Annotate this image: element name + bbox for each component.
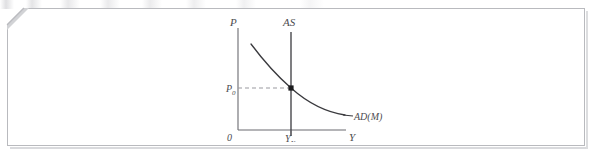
equilibrium-point xyxy=(288,85,293,90)
equilibrium-price-label: P0 xyxy=(225,83,236,97)
scan-noise-artifact xyxy=(0,0,606,9)
figure-page: P Y 0 AS AD(M) P0 YN xyxy=(0,0,606,161)
x-axis-label: Y xyxy=(349,131,357,142)
natural-output-label: YN xyxy=(285,133,296,142)
ad-as-diagram: P Y 0 AS AD(M) P0 YN xyxy=(205,12,405,142)
p0-subscript: 0 xyxy=(232,89,236,97)
ad-label-argument: (M) xyxy=(367,111,383,123)
as-curve-label: AS xyxy=(282,16,296,28)
ad-label-leader xyxy=(343,115,353,116)
page-bottom-shadow xyxy=(10,147,588,149)
page-right-shadow xyxy=(586,11,588,149)
origin-label: 0 xyxy=(227,132,232,142)
yn-subscript: N xyxy=(290,139,296,142)
y-axis-label: P xyxy=(229,16,237,28)
chart-svg: P Y 0 AS AD(M) P0 YN xyxy=(205,12,405,142)
ad-curve xyxy=(251,44,345,115)
ad-label-main: AD xyxy=(353,111,368,122)
ad-curve-label: AD(M) xyxy=(353,111,383,123)
p0-base: P xyxy=(225,83,232,94)
